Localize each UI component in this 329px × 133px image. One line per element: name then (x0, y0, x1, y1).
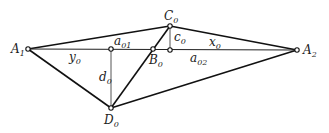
point-a2 (295, 48, 299, 52)
diagram-canvas: A1 A2 C0 B0 D0 a01 a02 y0 x0 c0 d0 (0, 0, 329, 133)
edge-a1-c0 (28, 26, 170, 49)
geometry-diagram: A1 A2 C0 B0 D0 a01 a02 y0 x0 c0 d0 (0, 0, 329, 133)
point-a1 (26, 47, 30, 51)
label-a01: a01 (114, 34, 131, 50)
point-d0 (109, 106, 113, 110)
point-c0 (168, 24, 172, 28)
label-x0: x0 (209, 35, 221, 51)
label-a2: A2 (302, 43, 317, 59)
label-c0-segment: c0 (174, 30, 186, 46)
point-foot-c0 (168, 48, 172, 52)
label-a02: a02 (190, 51, 207, 67)
point-foot-d0 (109, 47, 113, 51)
point-b0 (151, 47, 155, 51)
label-a1: A1 (10, 42, 25, 58)
label-d0-segment: d0 (99, 70, 112, 86)
label-b0: B0 (148, 53, 163, 69)
edge-c0-a2 (170, 26, 297, 50)
label-d0: D0 (103, 113, 119, 129)
label-c0: C0 (164, 9, 178, 25)
label-y0: y0 (68, 50, 81, 66)
